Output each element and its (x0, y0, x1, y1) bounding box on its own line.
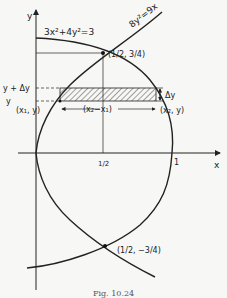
y-plus-dy-label: y + Δy (3, 84, 30, 93)
left-point-label: (x₁, y) (16, 106, 40, 115)
right-point-label: (x₂, y) (160, 106, 184, 115)
shaded-strip (60, 88, 156, 101)
delta-y-label: Δy (165, 91, 175, 100)
lower-point-label: (1/2, −3/4) (117, 246, 161, 255)
width-label: (x₂−x₁) (83, 105, 112, 114)
upper-point-label: (1/2, 3/4) (108, 50, 145, 59)
y-axis-label: y (27, 11, 33, 21)
intersection-point-upper (101, 51, 105, 55)
x-tick-one: 1 (174, 158, 179, 167)
y-label: y (6, 97, 11, 106)
figure-caption: Fig. 10.24 (0, 289, 227, 298)
x-tick-half: 1/2 (98, 160, 109, 168)
x-axis-label: x (214, 160, 220, 170)
intersection-point-lower (103, 244, 107, 248)
parabola-equation: 8y²=9x (127, 1, 160, 30)
ellipse-equation: 3x²+4y²=3 (44, 27, 94, 37)
strip-left-point (59, 100, 62, 103)
